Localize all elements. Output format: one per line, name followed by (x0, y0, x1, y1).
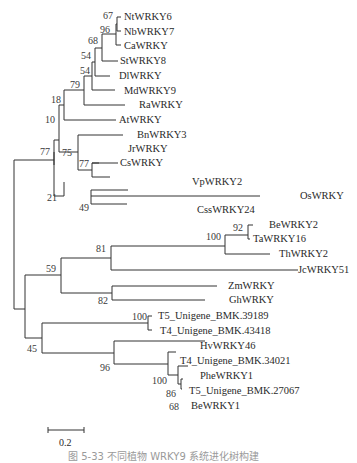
taxon-label: BeWRKY2 (269, 219, 318, 230)
bootstrap-value: 100 (132, 311, 147, 322)
bootstrap-value: 96 (100, 362, 110, 373)
bootstrap-value: 79 (70, 79, 80, 90)
bootstrap-value: 54 (80, 65, 90, 76)
branch (59, 105, 64, 152)
bootstrap-value: 68 (88, 35, 98, 46)
taxon-label: MdWRKY9 (124, 85, 176, 96)
bootstrap-value: 86 (166, 388, 176, 399)
bootstrap-value: 18 (51, 94, 61, 105)
figure-caption: 图 5-33 不同植物 WRKY9 系统进化树构建 (68, 448, 259, 463)
taxon-label: RaWRKY (139, 99, 183, 110)
taxon-label: ZmWRKY (228, 280, 275, 291)
branch (148, 316, 152, 330)
bootstrap-value: 75 (62, 147, 72, 158)
bootstrap-value: 77 (40, 146, 50, 157)
taxon-label: JrWRKY (128, 143, 168, 154)
bootstrap-value: 77 (79, 158, 89, 169)
taxon-label: T4_Unigene_BMK.43418 (160, 325, 271, 336)
branch (117, 17, 121, 31)
taxon-label: JcWRKY51 (298, 264, 349, 275)
bootstrap-value: 21 (47, 192, 57, 203)
bootstrap-value: 100 (152, 375, 167, 386)
taxon-label: ThWRKY2 (279, 248, 328, 259)
branch (42, 323, 148, 353)
bootstrap-value: 68 (169, 401, 179, 412)
taxon-label: GhWRKY (229, 294, 274, 305)
taxon-label: AtWRKY (119, 114, 162, 125)
bootstrap-value: 59 (46, 263, 56, 274)
branch (111, 246, 298, 270)
bootstrap-value: 54 (81, 50, 91, 61)
taxon-label: BnWRKY3 (137, 129, 187, 140)
taxon-label: BeWRKY1 (191, 400, 240, 411)
scale-bar-label: 0.2 (59, 437, 72, 448)
bootstrap-value: 49 (79, 202, 89, 213)
bootstrap-value: 67 (103, 10, 113, 21)
taxon-label: CaWRKY (124, 40, 168, 51)
taxon-label: OsWRKY (300, 190, 344, 201)
branch (112, 286, 217, 300)
taxon-label: T4_Unigene_BMK.34021 (180, 355, 291, 366)
bootstrap-value: 82 (98, 295, 108, 306)
branch (168, 352, 178, 375)
taxon-label: StWRKY8 (120, 55, 166, 66)
bootstrap-value: 10 (45, 114, 55, 125)
taxon-label: T5_Unigene_BMK.39189 (158, 310, 269, 321)
taxon-label: HvWRKY46 (200, 340, 255, 351)
bootstrap-value: 100 (206, 231, 221, 242)
bootstrap-value: 81 (96, 243, 106, 254)
branch (91, 190, 128, 204)
taxon-label: NbWRKY7 (124, 26, 174, 37)
taxon-label: TaWRKY16 (253, 233, 306, 244)
bootstrap-value: 92 (233, 222, 243, 233)
bootstrap-value: 96 (100, 24, 110, 35)
taxon-label: NtWRKY6 (124, 11, 172, 22)
taxon-label: T5_Unigene_BMK.27067 (189, 385, 300, 396)
taxon-label: PheWRKY1 (200, 370, 253, 381)
branch (61, 258, 112, 293)
taxon-label: VpWRKY2 (192, 176, 242, 187)
taxon-label: DlWRKY (119, 70, 162, 81)
branch (25, 275, 61, 338)
bootstrap-value: 45 (27, 343, 37, 354)
branch (92, 163, 110, 177)
scale-bar: 0.2 (48, 427, 84, 448)
taxon-label: CsWRKY (120, 157, 164, 168)
taxon-label: CssWRKY24 (197, 204, 256, 215)
branch (181, 379, 183, 389)
root-branch (14, 160, 25, 309)
branch (178, 366, 188, 384)
